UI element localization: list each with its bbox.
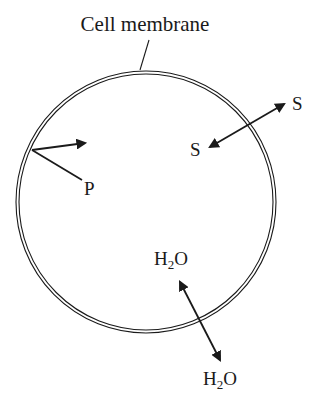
water-outside-label: H2O (203, 368, 237, 392)
membrane-leader-line (140, 40, 149, 70)
cell-membrane (16, 71, 276, 333)
solute-outside-label: S (292, 93, 303, 114)
water-double-arrow (180, 282, 220, 360)
protein-arrow (32, 143, 85, 180)
water-inside-label: H2O (154, 248, 188, 272)
cell-membrane-label: Cell membrane (81, 12, 210, 36)
solute-double-arrow (210, 104, 284, 147)
protein-label: P (84, 178, 95, 199)
cell-diagram: Cell membrane P S S H2O H2O (0, 0, 310, 404)
solute-inside-label: S (190, 139, 201, 160)
